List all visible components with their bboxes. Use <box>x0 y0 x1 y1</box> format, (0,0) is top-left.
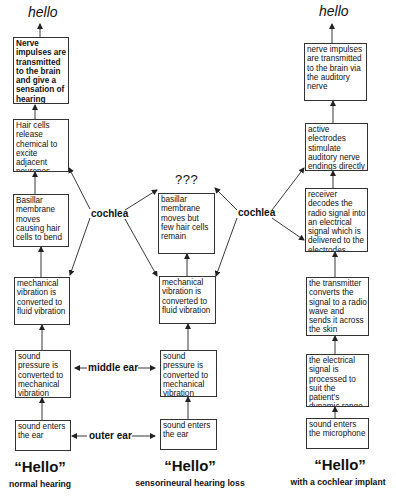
label-outer-ear: outer ear <box>89 430 132 441</box>
label-middle-ear: middle ear <box>88 362 138 373</box>
step-nerve-impulses-implant: nerve impulses are transmitted to the br… <box>304 43 367 101</box>
step-receiver-decodes: receiver decodes the radio signal into a… <box>305 188 368 252</box>
step-sound-enters-microphone: sound enters the microphone <box>306 418 369 449</box>
caption-sensorineural-loss: sensorineural hearing loss <box>125 478 255 488</box>
output-hello-normal: hello <box>28 4 58 20</box>
title-hello-normal: “Hello” <box>0 458 80 475</box>
output-hello-implant: hello <box>319 3 349 19</box>
step-mechanical-vibration: mechanical vibration is converted to flu… <box>14 277 70 325</box>
caption-normal-hearing: normal hearing <box>0 479 80 489</box>
step-transmitter: the transmitter converts the signal to a… <box>306 277 369 336</box>
step-active-electrodes: active electrodes stimulate auditory ner… <box>305 123 368 171</box>
title-hello-implant: “Hello” <box>295 456 385 473</box>
caption-cochlear-implant: with a cochlear implant <box>280 477 396 487</box>
step-hair-cells-release: Hair cells release chemical to excite ad… <box>13 119 69 172</box>
step-signal-processing: the electrical signal is processed to su… <box>306 354 369 407</box>
step-basillar-membrane: Basillar membrane moves causing hair cel… <box>13 194 69 247</box>
step-sound-pressure: sound pressure is converted to mechanica… <box>15 350 71 398</box>
title-hello-loss: “Hello” <box>145 457 235 474</box>
step-mechanical-vibration-loss: mechanical vibration is converted to flu… <box>159 276 216 324</box>
step-nerve-impulses: Nerve impulses are transmitted to the br… <box>13 37 69 104</box>
step-sound-pressure-loss: sound pressure is converted to mechanica… <box>160 350 217 397</box>
step-basillar-few-hair-cells: basillar membrane moves but few hair cel… <box>158 193 215 254</box>
label-cochlea-right: cochlea <box>238 207 275 218</box>
label-cochlea-left: cochlea <box>91 208 128 219</box>
output-unknown: ??? <box>175 172 198 187</box>
step-sound-enters-ear-loss: sound enters the ear <box>160 419 217 450</box>
step-sound-enters-ear: sound enters the ear <box>15 420 71 451</box>
